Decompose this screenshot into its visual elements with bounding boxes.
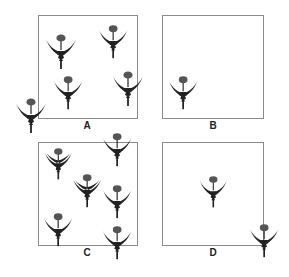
plant-icon bbox=[101, 225, 133, 259]
plant-icon bbox=[101, 132, 133, 166]
quadrat-label-d: D bbox=[203, 247, 223, 258]
plant-icon bbox=[167, 75, 199, 109]
plant-icon bbox=[248, 223, 280, 257]
quadrat-label-a: A bbox=[77, 120, 97, 131]
plant-icon bbox=[52, 75, 84, 109]
plant-icon bbox=[101, 184, 133, 218]
quadrat-label-c: C bbox=[77, 247, 97, 258]
plant-icon bbox=[97, 24, 129, 58]
quadrat-label-b: B bbox=[203, 120, 223, 131]
plant-icon bbox=[44, 33, 78, 69]
plant-icon bbox=[42, 212, 74, 246]
plant-icon bbox=[14, 97, 48, 133]
plant-icon bbox=[71, 173, 103, 207]
quadrat-figure: ABCD bbox=[0, 0, 289, 277]
plant-icon bbox=[198, 175, 229, 207]
plant-icon bbox=[111, 70, 145, 106]
plant-icon bbox=[43, 147, 74, 179]
